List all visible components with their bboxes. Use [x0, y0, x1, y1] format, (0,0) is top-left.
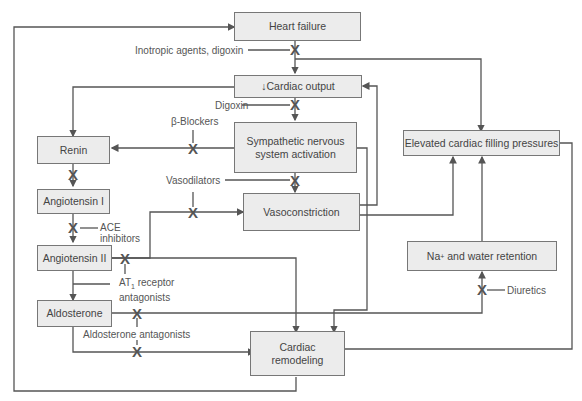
node-remodeling-line2: remodeling — [272, 354, 324, 367]
node-aldosterone-label: Aldosterone — [46, 307, 102, 320]
block-icon-vasodilators: X — [187, 205, 199, 220]
node-sympathetic: Sympathetic nervous system activation — [234, 122, 357, 173]
block-icon-at1: X — [119, 251, 131, 266]
node-angiotensin-ii: Angiotensin II — [37, 245, 112, 271]
node-cardiac-output: ↓ Cardiac output — [234, 75, 362, 98]
drug-inotropic-label: Inotropic agents, digoxin — [135, 45, 243, 56]
node-renin: Renin — [37, 136, 110, 164]
block-icon-diuretics: X — [476, 282, 488, 297]
node-heart-failure: Heart failure — [234, 12, 361, 41]
drug-aldosterone-antagonists-label: Aldosterone antagonists — [83, 329, 190, 340]
node-angiotensin-ii-label: Angiotensin II — [43, 252, 107, 265]
node-remodeling-line1: Cardiac — [279, 341, 315, 354]
drug-ace-line1: ACE — [100, 222, 140, 233]
block-icon-inotropic: X — [289, 42, 301, 57]
node-elevated-filling-label: Elevated cardiac filling pressures — [405, 137, 559, 150]
node-vasoconstriction: Vasoconstriction — [243, 193, 360, 231]
node-elevated-filling: Elevated cardiac filling pressures — [403, 130, 560, 156]
block-icon-digoxin: X — [289, 97, 301, 112]
drug-ace-label: ACE inhibitors — [100, 222, 140, 244]
node-sympathetic-line2: system activation — [255, 148, 336, 161]
drug-ace-line2: inhibitors — [100, 233, 140, 244]
block-icon-beta-blockers: X — [187, 141, 199, 156]
drug-digoxin-label: Digoxin — [215, 100, 248, 111]
node-vasoconstriction-label: Vasoconstriction — [263, 206, 339, 219]
drug-vasodilators-label: Vasodilators — [166, 175, 220, 186]
node-cardiac-output-label: Cardiac output — [266, 80, 334, 93]
node-angiotensin-i: Angiotensin I — [37, 189, 110, 214]
drug-beta-blockers-label: β-Blockers — [171, 116, 218, 127]
block-icon-vasodilators-sym: X — [289, 173, 301, 188]
node-na-retention-suffix: and water retention — [444, 250, 537, 263]
block-icon-renin: X — [67, 167, 79, 182]
drug-at1-suffix: receptor — [135, 277, 174, 288]
node-na-retention-prefix: Na — [427, 250, 440, 263]
block-icon-ace: X — [67, 220, 79, 235]
node-sympathetic-line1: Sympathetic nervous — [246, 135, 344, 148]
drug-at1-line2: antagonists — [119, 292, 174, 303]
node-heart-failure-label: Heart failure — [269, 20, 326, 33]
node-na-retention: Na+ and water retention — [407, 241, 557, 271]
block-icon-aldosterone-na: X — [131, 306, 143, 321]
node-renin-label: Renin — [60, 144, 87, 157]
node-cardiac-remodeling: Cardiac remodeling — [250, 331, 345, 376]
block-icon-aldosterone-remodeling: X — [131, 344, 143, 359]
drug-diuretics-label: Diuretics — [507, 285, 546, 296]
node-aldosterone: Aldosterone — [37, 300, 112, 327]
drug-at1-prefix: AT — [119, 277, 131, 288]
node-angiotensin-i-label: Angiotensin I — [43, 195, 104, 208]
drug-at1-label: AT1 receptor antagonists — [119, 277, 174, 303]
